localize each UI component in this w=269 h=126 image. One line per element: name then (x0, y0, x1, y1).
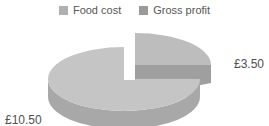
legend-item-food-cost: Food cost (59, 5, 121, 16)
legend-label-food-cost: Food cost (73, 5, 121, 16)
square-swatch-icon (59, 6, 68, 15)
data-label-gross-profit: £3.50 (234, 58, 264, 70)
legend-label-gross-profit: Gross profit (153, 5, 210, 16)
pie-slice-gross-profit-top (135, 33, 211, 65)
chart-legend: Food cost Gross profit (0, 5, 269, 16)
data-label-food-cost: £10.50 (5, 114, 42, 126)
explosion-gap (124, 36, 135, 80)
pie-chart-figure: Food cost Gross profit (0, 0, 269, 126)
pie-plot-area: £3.50 £10.50 (0, 22, 269, 126)
pie-svg (0, 22, 269, 126)
legend-item-gross-profit: Gross profit (139, 5, 210, 16)
square-swatch-icon (139, 6, 148, 15)
